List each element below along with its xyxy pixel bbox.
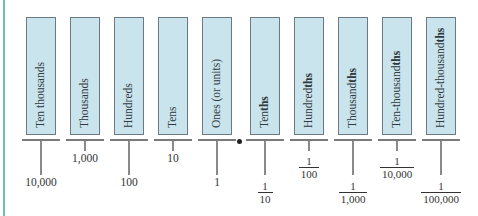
column-tenths: Tenths 1 10 [246,0,286,216]
column-thousandths: Thousandths 1 1,000 [334,0,374,216]
fraction-denominator: 10,000 [380,167,414,180]
place-value: 10,000 [22,176,60,188]
stem-line [40,141,42,175]
stem-line [396,141,398,151]
place-label: Hundred-thousand [434,42,446,128]
place-box: Hundred-thousandths [426,17,456,135]
column-thousands: Thousands 1,000 [66,0,106,216]
place-fraction: 1 10,000 [368,155,426,180]
fraction-numerator: 1 [280,155,338,167]
place-box: Ten thousands [26,17,56,135]
place-suffix: ths [302,73,314,88]
place-suffix: ths [434,28,446,43]
place-box: Tenths [250,17,280,135]
place-label: Thousand [346,83,358,128]
place-label: Hundred [302,88,314,128]
place-suffix: ths [258,96,270,111]
column-hundreds: Hundreds 100 [110,0,150,216]
stem-line [172,141,174,151]
place-box: Hundredths [294,17,324,135]
place-value: 100 [110,176,148,188]
place-label: Ten [258,111,270,128]
column-tens: Tens 10 [154,0,194,216]
fraction-denominator: 10 [258,192,273,205]
stem-line [352,141,354,175]
place-label: Ten thousands [34,62,46,128]
place-box: Tens [158,17,188,135]
column-ten-thousands: Ten thousands 10,000 [22,0,62,216]
fraction-denominator: 100 [299,167,320,180]
place-suffix: ths [346,68,358,83]
place-label: Ten-thousand [390,66,402,128]
place-label: Thousands [78,78,90,128]
column-hundred-thousandths: Hundred-thousandths 1 100,000 [422,0,462,216]
place-value: 1 [198,176,236,188]
stem-line [264,141,266,175]
place-fraction: 1 100 [280,155,338,180]
place-fraction: 1 10 [236,180,294,205]
place-box: Ones (or units) [202,17,232,135]
place-box: Thousandths [338,17,368,135]
left-accent-rule [3,0,5,216]
fraction-numerator: 1 [324,180,382,192]
fraction-numerator: 1 [368,155,426,167]
place-label: Ones (or units) [210,59,222,128]
stem-line [440,141,442,175]
place-value: 1,000 [66,152,104,164]
stem-line [308,141,310,151]
fraction-numerator: 1 [412,180,470,192]
place-value: 10 [154,152,192,164]
place-fraction: 1 1,000 [324,180,382,205]
place-label: Hundreds [122,83,134,128]
stem-line [216,141,218,175]
decimal-point [237,139,242,144]
place-suffix: ths [390,51,402,66]
place-fraction: 1 100,000 [412,180,470,205]
stem-line [84,141,86,151]
place-box: Hundreds [114,17,144,135]
fraction-numerator: 1 [236,180,294,192]
place-box: Ten-thousandths [382,17,412,135]
place-label: Tens [166,106,178,128]
stem-line [128,141,130,175]
place-box: Thousands [70,17,100,135]
column-ones: Ones (or units) 1 [198,0,238,216]
fraction-denominator: 1,000 [339,192,368,205]
fraction-denominator: 100,000 [421,192,461,205]
